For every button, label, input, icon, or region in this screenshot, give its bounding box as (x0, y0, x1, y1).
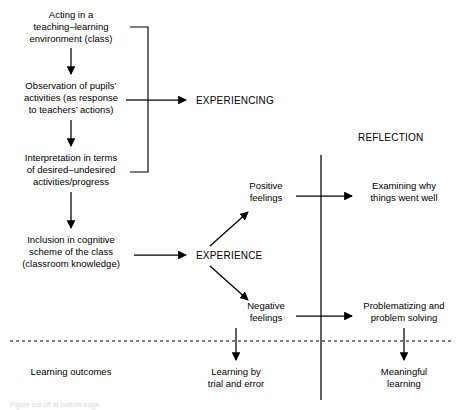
label-learning-outcomes: Learning outcomes (31, 366, 112, 377)
node-inclusion-line-3: (classroom knowledge) (22, 258, 120, 269)
stage-label-experience: EXPERIENCE (196, 250, 263, 261)
arrow-experience-to-positive (210, 212, 248, 246)
node-problematizing: Problematizing and problem solving (363, 300, 444, 323)
stage-label-experiencing: EXPERIENCING (196, 95, 274, 106)
node-inclusion: Inclusion in cognitive scheme of the cla… (22, 234, 120, 269)
node-observation: Observation of pupils’ activities (as re… (24, 80, 118, 115)
node-examining-line-2: things went well (370, 192, 437, 203)
node-trial-and-error: Learning by trial and error (208, 366, 265, 389)
node-acting-line-1: Acting in a (49, 9, 94, 20)
node-meaningful-learning: Meaningful learning (381, 366, 427, 389)
node-interpretation: Interpretation in terms of desired–undes… (25, 152, 118, 187)
node-trial-and-error-line-2: trial and error (208, 378, 265, 389)
stage-label-reflection: REFLECTION (358, 132, 423, 143)
node-meaningful-learning-line-1: Meaningful (381, 366, 427, 377)
figure-container: Acting in a teaching–learning environmen… (0, 0, 462, 410)
node-acting-line-3: environment (class) (30, 33, 113, 44)
node-negative-feelings-line-2: feelings (250, 312, 283, 323)
node-positive-feelings: Positive feelings (249, 180, 282, 203)
node-meaningful-learning-line-2: learning (387, 378, 421, 389)
node-problematizing-line-1: Problematizing and (363, 300, 444, 311)
node-inclusion-line-1: Inclusion in cognitive (27, 234, 115, 245)
node-positive-feelings-line-1: Positive (249, 180, 282, 191)
node-examining-line-1: Examining why (372, 180, 436, 191)
node-acting: Acting in a teaching–learning environmen… (30, 9, 113, 44)
node-positive-feelings-line-2: feelings (250, 192, 283, 203)
node-inclusion-line-2: scheme of the class (29, 246, 113, 257)
node-acting-line-2: teaching–learning (33, 21, 108, 32)
node-observation-line-1: Observation of pupils’ (25, 80, 116, 91)
node-examining: Examining why things went well (370, 180, 437, 203)
node-interpretation-line-1: Interpretation in terms (25, 152, 118, 163)
node-observation-line-3: to teachers’ actions) (29, 104, 114, 115)
arrow-experience-to-negative (210, 266, 248, 300)
node-trial-and-error-line-1: Learning by (211, 366, 261, 377)
node-observation-line-2: activities (as response (24, 92, 118, 103)
node-problematizing-line-2: problem solving (371, 312, 438, 323)
node-interpretation-line-3: activities/progress (33, 176, 109, 187)
node-negative-feelings-line-1: Negative (247, 300, 285, 311)
diagram-canvas: Acting in a teaching–learning environmen… (0, 0, 462, 410)
node-negative-feelings: Negative feelings (247, 300, 285, 323)
figure-caption-cutoff: Figure cut off at bottom edge (10, 401, 99, 409)
node-interpretation-line-2: of desired–undesired (27, 164, 116, 175)
